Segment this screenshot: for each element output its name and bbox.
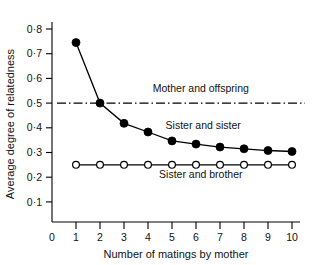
data-point-sister-and-brother <box>193 161 200 168</box>
y-tick-label: 0·7 <box>27 47 42 59</box>
x-tick-label: 3 <box>121 231 127 243</box>
data-point-sister-and-sister <box>264 147 272 155</box>
y-tick-label: 0·6 <box>27 72 42 84</box>
data-point-sister-and-brother <box>265 161 272 168</box>
data-point-sister-and-sister <box>216 143 224 151</box>
data-point-sister-and-brother <box>73 161 80 168</box>
x-tick-label: 1 <box>73 231 79 243</box>
y-tick-label: 0·1 <box>27 196 42 208</box>
data-point-sister-and-brother <box>169 161 176 168</box>
relatedness-line-chart: 0·10·20·30·40·50·60·70·8 012345678910 Mo… <box>0 0 313 265</box>
data-point-sister-and-sister <box>120 119 128 127</box>
y-axis-title: Average degree of relatedness <box>4 48 16 199</box>
chart-background <box>0 0 313 265</box>
data-point-sister-and-brother <box>121 161 128 168</box>
data-point-sister-and-sister <box>192 140 200 148</box>
x-tick-label: 2 <box>97 231 103 243</box>
y-tick-label: 0·4 <box>27 121 42 133</box>
annotation-sister-and-sister: Sister and sister <box>166 119 242 131</box>
data-point-sister-and-sister <box>144 128 152 136</box>
x-tick-label: 9 <box>265 231 271 243</box>
data-point-sister-and-brother <box>97 161 104 168</box>
y-tick-label: 0·5 <box>27 97 42 109</box>
x-axis-title: Number of matings by mother <box>104 248 249 260</box>
data-point-sister-and-sister <box>288 148 296 156</box>
x-tick-label: 4 <box>145 231 151 243</box>
x-tick-label: 7 <box>217 231 223 243</box>
chart-figure: 0·10·20·30·40·50·60·70·8 012345678910 Mo… <box>0 0 313 265</box>
x-tick-label: 10 <box>286 231 298 243</box>
x-tick-label: 8 <box>241 231 247 243</box>
data-point-sister-and-sister <box>240 145 248 153</box>
y-tick-label: 0·2 <box>27 171 42 183</box>
data-point-sister-and-brother <box>217 161 224 168</box>
data-point-sister-and-brother <box>145 161 152 168</box>
annotation-mother-and-offspring: Mother and offspring <box>153 82 249 94</box>
data-point-sister-and-brother <box>289 161 296 168</box>
data-point-sister-and-sister <box>72 39 80 47</box>
annotation-sister-and-brother: Sister and brother <box>159 168 243 180</box>
data-point-sister-and-sister <box>168 137 176 145</box>
data-point-sister-and-sister <box>96 99 104 107</box>
y-tick-label: 0·8 <box>27 23 42 35</box>
y-tick-label: 0·3 <box>27 146 42 158</box>
data-point-sister-and-brother <box>241 161 248 168</box>
x-tick-label: 0 <box>49 231 55 243</box>
x-tick-label: 5 <box>169 231 175 243</box>
x-tick-label: 6 <box>193 231 199 243</box>
